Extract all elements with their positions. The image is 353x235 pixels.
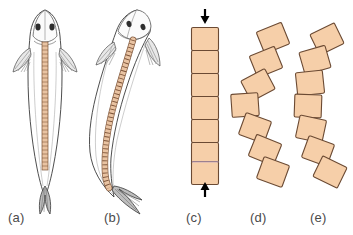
vertebral-block — [192, 28, 219, 51]
panel-d-vertebral-chain-kinked — [231, 22, 290, 187]
vertebral-block — [192, 74, 219, 97]
vertebral-block — [231, 93, 260, 118]
compression-arrow-top — [201, 9, 210, 24]
panel-b-fish-bent — [89, 10, 160, 214]
panel-label-a: (a) — [8, 210, 25, 225]
vertebral-block — [192, 97, 219, 120]
panel-e-vertebral-chain-curved — [294, 23, 347, 189]
fish-a-vertebral-column — [42, 42, 48, 170]
vertebral-block — [192, 162, 219, 185]
vertebral-block — [192, 120, 219, 143]
vertebral-block — [294, 94, 322, 118]
panel-label-c: (c) — [186, 210, 202, 225]
fish-b-pectoral-fin-right — [145, 38, 160, 66]
vertebral-block — [299, 45, 331, 75]
panel-label-b: (b) — [104, 210, 121, 225]
figure-canvas — [0, 0, 353, 235]
vertebral-block — [295, 70, 324, 96]
chain-c-blocks — [192, 28, 219, 185]
fish-a-eye-left — [35, 24, 40, 31]
panel-label-e: (e) — [310, 210, 327, 225]
fish-a-eye-right — [49, 24, 54, 31]
figure-root: (a) (b) (c) (d) (e) — [0, 0, 353, 235]
vertebral-block — [192, 51, 219, 74]
panel-a-fish-straight — [13, 10, 77, 214]
panel-c-vertebral-chain-straight — [192, 9, 219, 197]
panel-label-d: (d) — [250, 210, 267, 225]
